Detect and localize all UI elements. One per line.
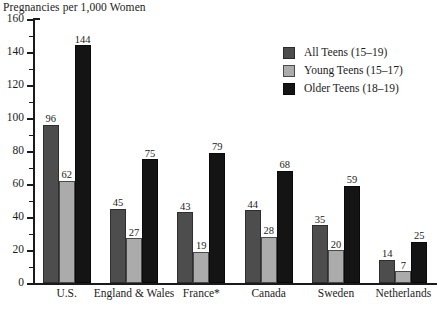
bar: 62 [59,181,75,283]
bar-value-label: 75 [145,149,156,160]
bar-value-label: 44 [247,200,258,211]
x-axis-category-label: Canada [251,288,285,300]
bar: 144 [75,45,91,283]
x-axis-category-label: Sweden [318,288,354,300]
y-tick-label: 120 [7,79,24,91]
legend-item: All Teens (15–19) [283,44,403,62]
bar-value-label: 14 [382,249,393,260]
bar: 20 [328,250,344,283]
y-tick-mark [27,283,34,285]
y-tick-mark [27,19,34,21]
bar: 19 [193,252,209,283]
bar: 28 [261,237,277,283]
bar-value-label: 96 [45,114,56,125]
bar-value-label: 43 [180,202,191,213]
y-tick-mark [27,85,34,87]
y-minor-tick-mark [29,102,34,103]
bar: 68 [277,171,293,283]
bar: 25 [411,242,427,283]
bar: 43 [177,212,193,283]
bar: 59 [344,186,360,283]
bar-value-label: 45 [113,198,124,209]
y-tick-mark [27,184,34,186]
legend-swatch-icon [283,83,295,95]
y-tick-label: 80 [13,145,25,157]
x-axis-category-label: England & Wales [94,288,175,300]
bar: 96 [43,125,59,283]
y-tick-label: 40 [13,211,25,223]
bar-value-label: 144 [75,35,91,46]
bar-value-label: 7 [401,261,406,272]
y-minor-tick-mark [29,168,34,169]
bar-group: 431979 [177,19,225,283]
y-tick-label: 140 [7,46,24,58]
legend-swatch-icon [283,65,295,77]
y-minor-tick-mark [29,201,34,202]
chart-legend: All Teens (15–19)Young Teens (15–17)Olde… [283,44,403,98]
bar-value-label: 20 [331,240,342,251]
bar-group: 9662144 [43,19,91,283]
legend-item-label: Older Teens (18–19) [304,83,399,95]
y-minor-tick-mark [29,234,34,235]
y-tick-label: 0 [18,277,24,289]
y-tick-mark [27,250,34,252]
x-axis-category-label: France* [183,288,220,300]
y-tick-label: 60 [13,178,25,190]
bar-value-label: 35 [315,215,326,226]
x-axis-category-label: Netherlands [376,288,432,300]
bar-value-label: 27 [129,228,140,239]
bar: 75 [142,159,158,283]
legend-item-label: Young Teens (15–17) [304,65,403,77]
y-tick-label: 100 [7,112,24,124]
bar: 14 [379,260,395,283]
bar-value-label: 25 [414,231,425,242]
legend-item-label: All Teens (15–19) [304,47,387,59]
bar-value-label: 59 [347,175,358,186]
legend-swatch-icon [283,47,295,59]
bar: 35 [312,225,328,283]
y-minor-tick-mark [29,36,34,37]
y-minor-tick-mark [29,135,34,136]
bar-group: 452775 [110,19,158,283]
y-tick-mark [27,118,34,120]
y-minor-tick-mark [29,267,34,268]
y-tick-mark [27,151,34,153]
bar-chart: Pregnancies per 1,000 Women 020406080100… [0,0,439,310]
bar: 7 [395,271,411,283]
legend-item: Older Teens (18–19) [283,80,403,98]
y-minor-tick-mark [29,69,34,70]
bar-value-label: 68 [279,160,290,171]
bar: 44 [245,210,261,283]
y-tick-mark [27,52,34,54]
x-axis-category-label: U.S. [56,288,76,300]
y-tick-mark [27,217,34,219]
bar: 79 [209,153,225,283]
y-tick-label: 20 [13,244,25,256]
y-tick-label: 160 [7,13,24,25]
chart-title: Pregnancies per 1,000 Women [3,1,146,13]
legend-item: Young Teens (15–17) [283,62,403,80]
x-axis-line [33,283,437,285]
bar-value-label: 62 [61,170,72,181]
bar-value-label: 28 [263,226,274,237]
bar-value-label: 19 [196,241,207,252]
bar: 27 [126,238,142,283]
bar: 45 [110,209,126,283]
bar-value-label: 79 [212,142,223,153]
